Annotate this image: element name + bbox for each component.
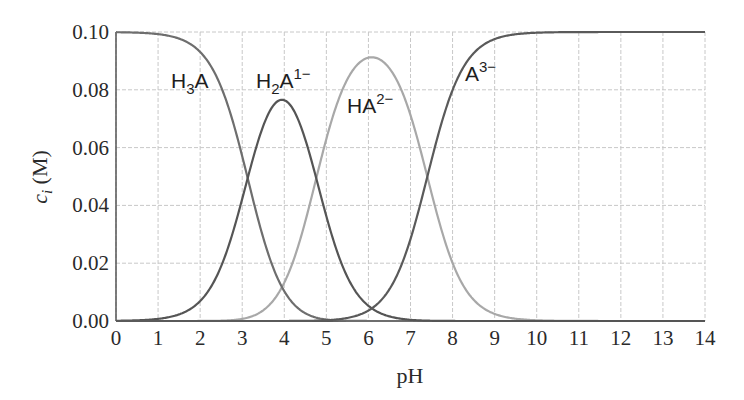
x-tick-label: 8 (447, 326, 458, 350)
x-tick-label: 1 (153, 326, 164, 350)
x-tick-label: 3 (237, 326, 248, 350)
y-tick-label: 0.06 (72, 136, 109, 160)
label-a3-: A3− (465, 58, 496, 85)
x-tick-label: 9 (489, 326, 500, 350)
y-axis-title-var: c (27, 194, 52, 204)
label-h3a: H3A (171, 69, 209, 97)
y-tick-label: 0.08 (72, 78, 109, 102)
x-tick-label: 0 (111, 326, 122, 350)
x-tick-label: 12 (610, 326, 631, 350)
y-tick-label: 0.00 (72, 309, 109, 333)
x-tick-labels: 01234567891011121314 (111, 326, 716, 350)
y-tick-label: 0.04 (72, 193, 109, 217)
y-tick-label: 0.10 (72, 20, 109, 44)
x-tick-label: 14 (695, 326, 717, 350)
x-tick-label: 2 (195, 326, 206, 350)
y-tick-labels: 0.000.020.040.060.080.10 (72, 20, 109, 333)
label-h2a1-: H2A1− (256, 65, 311, 97)
species-labels: H3AH2A1−HA2−A3− (171, 58, 496, 117)
y-axis-title-unit: (M) (27, 150, 52, 190)
x-tick-label: 13 (652, 326, 673, 350)
x-tick-label: 5 (321, 326, 332, 350)
y-tick-label: 0.02 (72, 251, 109, 275)
label-ha2-: HA2− (347, 90, 394, 117)
x-tick-label: 10 (526, 326, 547, 350)
x-tick-label: 11 (569, 326, 589, 350)
species-distribution-chart: 01234567891011121314 0.000.020.040.060.0… (0, 0, 744, 400)
x-axis-title: pH (397, 363, 424, 388)
svg-text:ci (M): ci (M) (27, 150, 55, 204)
x-tick-label: 7 (405, 326, 416, 350)
y-axis-title: ci (M) (27, 150, 55, 204)
x-tick-label: 6 (363, 326, 374, 350)
x-tick-label: 4 (279, 326, 290, 350)
